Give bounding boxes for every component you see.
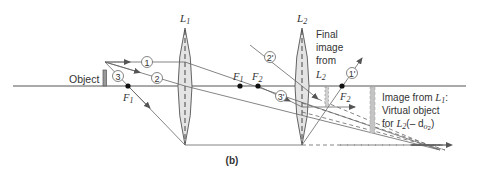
focal-label-f1-right: F1: [232, 71, 243, 84]
lens-l1: [178, 28, 192, 145]
svg-text:image: image: [316, 42, 344, 53]
focal-point-f1-right: [237, 83, 242, 88]
focal-point-f2-left: [255, 83, 260, 88]
object-arrow: [103, 70, 107, 86]
focal-label-f1-left: F1: [122, 92, 133, 105]
svg-text:Image from L1:: Image from L1:: [382, 92, 448, 105]
ray-label-2-prime: 2': [265, 52, 276, 63]
final-image: [325, 87, 329, 106]
virtual-object-image: [370, 87, 375, 133]
svg-text:Final: Final: [316, 29, 338, 40]
svg-text:1': 1': [349, 69, 356, 79]
ray-label-2: 2: [152, 73, 163, 84]
virtual-object-caption: Image from L1: Virtual object for L2(– d…: [382, 92, 448, 131]
svg-text:3': 3': [278, 92, 285, 102]
focal-label-f2-right: F2: [339, 91, 350, 104]
focal-point-f2-right: [339, 83, 344, 88]
ray-label-3: 3: [113, 71, 124, 82]
final-image-caption: Final image from L2: [315, 29, 344, 82]
object-label: Object: [69, 73, 99, 85]
two-lens-ray-diagram: 1 2 3 2' 3' 1' L1 L2 Object F1 F1 F2 F2 …: [0, 0, 477, 175]
svg-text:1: 1: [144, 58, 149, 68]
svg-text:from: from: [316, 55, 336, 66]
svg-text:3: 3: [115, 72, 120, 82]
lens-l1-label: L1: [179, 12, 190, 26]
ray-label-1: 1: [142, 57, 153, 68]
svg-text:L2: L2: [315, 69, 326, 82]
svg-text:2': 2': [267, 53, 274, 63]
focal-label-f2-left: F2: [251, 71, 262, 84]
panel-label: (b): [226, 155, 239, 166]
ray-label-3-prime: 3': [276, 91, 287, 102]
svg-text:Virtual object: Virtual object: [382, 105, 440, 116]
ray-label-1-prime: 1': [347, 68, 358, 79]
svg-text:2: 2: [154, 74, 159, 84]
focal-point-f1-left: [125, 83, 130, 88]
lens-l2-label: L2: [296, 12, 307, 26]
